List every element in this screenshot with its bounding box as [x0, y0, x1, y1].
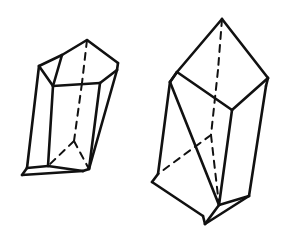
right-crystal-shape: [152, 19, 268, 224]
left-crystal-shape: [22, 40, 118, 175]
figure-canvas: [0, 0, 283, 241]
left-crystal-body-fill: [22, 40, 118, 175]
crystal-prisms-illustration: [0, 0, 283, 241]
